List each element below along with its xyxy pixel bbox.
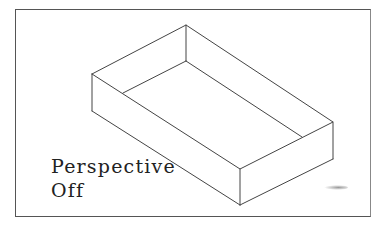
- perspective-state-label: Off: [51, 181, 84, 200]
- smudge-artifact: [324, 185, 348, 190]
- perspective-label: Perspective: [51, 157, 176, 176]
